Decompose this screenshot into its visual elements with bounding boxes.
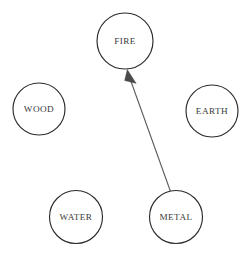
node-label-wood: WOOD bbox=[24, 104, 54, 114]
node-label-water: WATER bbox=[60, 212, 93, 222]
node-fire[interactable]: FIRE bbox=[97, 13, 153, 69]
arrowhead-icon bbox=[125, 70, 137, 84]
graph-svg: FIRE WOOD EARTH WATER METAL bbox=[0, 0, 243, 253]
node-metal[interactable]: METAL bbox=[150, 191, 203, 244]
edge-metal-to-fire[interactable] bbox=[125, 70, 171, 192]
node-label-earth: EARTH bbox=[196, 106, 228, 116]
node-earth[interactable]: EARTH bbox=[186, 85, 238, 137]
node-water[interactable]: WATER bbox=[50, 191, 103, 244]
node-label-metal: METAL bbox=[159, 212, 192, 222]
edge-line-metal-to-fire bbox=[131, 80, 171, 192]
node-wood[interactable]: WOOD bbox=[13, 83, 65, 135]
diagram-canvas: FIRE WOOD EARTH WATER METAL bbox=[0, 0, 243, 253]
node-label-fire: FIRE bbox=[114, 36, 136, 46]
